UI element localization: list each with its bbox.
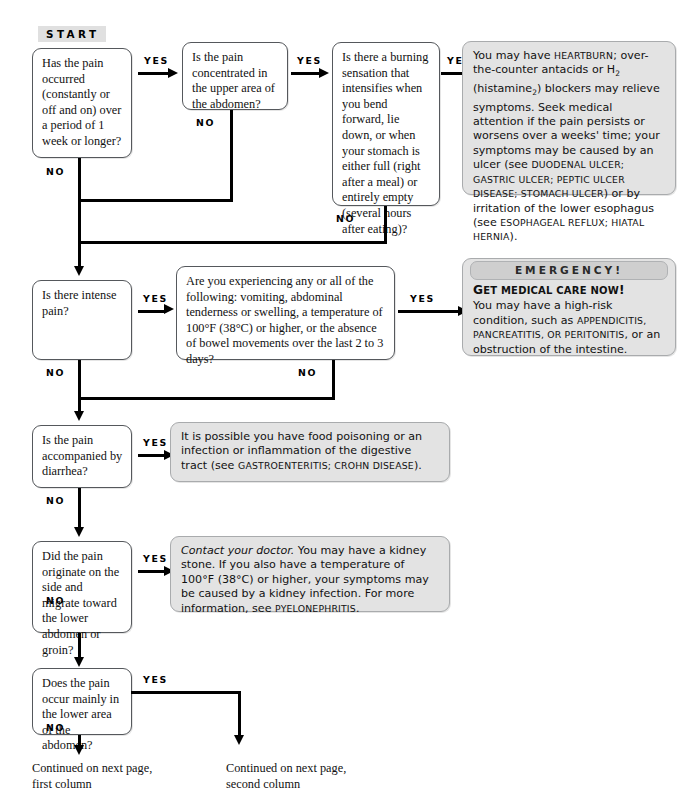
- connector-no-q2-vertical: [230, 110, 233, 202]
- question-text-q2: Is the pain concentrated in the upper ar…: [192, 50, 275, 111]
- connector-q1-to-q2: [138, 72, 170, 75]
- edge-label-yes-q4: YES: [143, 293, 168, 304]
- arrowhead-down-icon: [74, 411, 84, 421]
- edge-label-yes-q8: YES: [143, 674, 168, 685]
- emergency-banner: EMERGENCY!: [470, 261, 668, 280]
- edge-label-no-q6: NO: [46, 495, 65, 506]
- question-box-q2[interactable]: Is the pain concentrated in the upper ar…: [182, 42, 288, 110]
- edge-label-yes-q7: YES: [143, 553, 168, 564]
- connector-q5-to-emergency: [398, 310, 460, 313]
- connector-q4-to-q5: [138, 310, 166, 313]
- footer-continued-first-column: Continued on next page, first column: [32, 761, 182, 790]
- connector-q7-to-kidneystone: [138, 570, 166, 573]
- edge-label-no-q1: NO: [46, 166, 65, 177]
- answer-crossref-kidney: pyelonephritis: [275, 603, 356, 614]
- edge-label-no-q2: NO: [196, 117, 215, 128]
- edge-label-no-q4: NO: [46, 367, 65, 378]
- connector-no-q4-trunk: [78, 360, 81, 415]
- emergency-heading: Get medical care now!: [473, 283, 666, 298]
- arrowhead-down-icon: [74, 657, 84, 667]
- connector-no-q5-vertical: [332, 360, 335, 400]
- question-box-q4[interactable]: Is there intense pain?: [32, 280, 132, 360]
- edge-label-no-q7: NO: [46, 595, 65, 606]
- answer-box-kidney-stone: Contact your doctor. You may have a kidn…: [170, 536, 450, 612]
- question-box-q3[interactable]: Is there a burning sensation that intens…: [332, 42, 440, 206]
- flowchart-canvas: START Has the pain occurred (constantly …: [0, 0, 684, 790]
- answer-text-heartburn-d: ) blockers may relieve symptoms. Seek me…: [473, 82, 660, 171]
- connector-q6-to-foodpoisoning: [138, 454, 166, 457]
- connector-no-q1-trunk: [78, 158, 81, 270]
- edge-label-yes-q2: YES: [297, 55, 322, 66]
- question-box-q6[interactable]: Is the pain accompanied by diarrhea?: [32, 425, 132, 488]
- arrowhead-right-icon: [319, 68, 329, 78]
- question-box-q5[interactable]: Are you experiencing any or all of the f…: [176, 266, 395, 360]
- answer-crossref-food: gastroenteritis; Crohn disease: [238, 460, 414, 471]
- arrowhead-down-icon: [74, 745, 84, 755]
- connector-q2-to-q3: [291, 72, 321, 75]
- answer-text-heartburn-f: ).: [510, 230, 518, 243]
- connector-no-q2-horizontal: [78, 199, 233, 202]
- emergency-heading-first: G: [473, 283, 483, 297]
- arrowhead-right-icon: [164, 304, 174, 314]
- connector-no-q3-vertical: [384, 206, 387, 244]
- arrowhead-down-icon: [74, 266, 84, 276]
- footer-continued-second-column: Continued on next page, second column: [226, 761, 386, 790]
- question-box-q7[interactable]: Did the pain originate on the side and m…: [32, 541, 132, 633]
- edge-label-no-q3: NO: [336, 213, 355, 224]
- subscript-2: 2: [615, 70, 620, 79]
- start-label: START: [38, 26, 106, 42]
- answer-italic-kidney: Contact your doctor.: [181, 544, 294, 557]
- question-text-q5: Are you experiencing any or all of the f…: [186, 274, 383, 366]
- answer-crossref-heartburn: heartburn: [554, 50, 613, 61]
- emergency-heading-bang: !: [619, 283, 625, 297]
- connector-no-q3-horizontal: [78, 241, 387, 244]
- answer-box-heartburn: You may have heartburn; over-the-counter…: [462, 41, 676, 195]
- question-box-q1[interactable]: Has the pain occurred (constantly or off…: [32, 48, 132, 158]
- question-text-q1: Has the pain occurred (constantly or off…: [42, 56, 121, 148]
- question-text-q4: Is there intense pain?: [42, 288, 116, 318]
- emergency-heading-rest: et medical care now: [483, 285, 619, 296]
- connector-no-q6-trunk: [78, 488, 81, 531]
- connector-no-q5-horizontal: [78, 397, 335, 400]
- question-text-q6: Is the pain accompanied by diarrhea?: [42, 433, 122, 478]
- answer-text-heartburn-c: (histamine: [473, 82, 532, 95]
- answer-box-food-poisoning: It is possible you have food poisoning o…: [170, 422, 450, 482]
- answer-text-food-b: ).: [414, 459, 422, 472]
- edge-label-yes-q1: YES: [144, 55, 169, 66]
- answer-text-heartburn-a: You may have: [473, 49, 554, 62]
- arrowhead-down-icon: [74, 527, 84, 537]
- edge-label-yes-q5: YES: [410, 293, 435, 304]
- answer-text-kidney-b: .: [356, 602, 360, 615]
- arrowhead-down-icon: [234, 735, 244, 745]
- edge-label-no-q5: NO: [298, 367, 317, 378]
- connector-q8-yes-horizontal: [131, 691, 241, 694]
- arrowhead-right-icon: [168, 68, 178, 78]
- connector-q8-yes-vertical: [238, 691, 241, 739]
- edge-label-yes-q6: YES: [143, 437, 168, 448]
- edge-label-no-q8: NO: [46, 722, 65, 733]
